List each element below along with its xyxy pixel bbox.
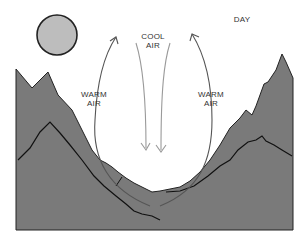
day-label: DAY	[222, 15, 262, 24]
warm-air-label-left: WARM AIR	[76, 90, 112, 108]
cool-air-arrow-left	[136, 43, 146, 148]
mountain-valley-silhouette	[16, 54, 293, 230]
cool-air-arrow-right	[161, 43, 170, 150]
warm-air-label-right: WARM AIR	[193, 90, 229, 108]
cool-air-label: COOL AIR	[135, 32, 171, 50]
sun-icon	[37, 15, 77, 55]
